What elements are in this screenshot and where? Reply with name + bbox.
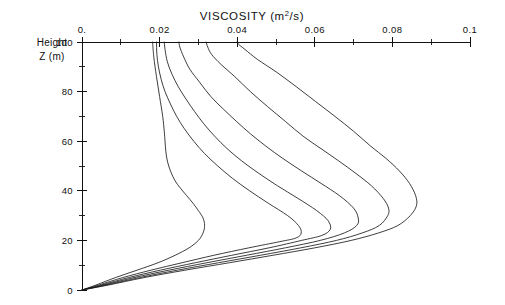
y-axis-label-line2: Z (m)	[39, 51, 64, 62]
viscosity-curve	[82, 42, 389, 290]
x-tick-label: 0.04	[227, 24, 247, 35]
x-tick-label: 0.02	[150, 24, 170, 35]
y-tick-label: 20	[62, 235, 73, 246]
y-tick-label: 100	[56, 37, 73, 48]
y-axis: 020406080100	[56, 37, 87, 296]
curve-group	[82, 42, 417, 290]
y-tick-label: 60	[62, 136, 73, 147]
x-tick-label: 0.	[78, 24, 87, 35]
viscosity-curve	[82, 42, 205, 290]
x-axis: 0.0.020.040.060.080.1	[78, 24, 478, 47]
y-tick-label: 40	[62, 185, 73, 196]
viscosity-curve	[82, 42, 417, 290]
chart-title: VISCOSITY (m2/s)	[200, 9, 304, 22]
x-tick-label: 0.08	[382, 24, 402, 35]
y-tick-label: 80	[62, 86, 73, 97]
x-tick-label: 0.06	[305, 24, 325, 35]
viscosity-profile-chart: VISCOSITY (m2/s) Height Z (m) 0.0.020.04…	[0, 0, 505, 305]
viscosity-curve	[82, 42, 301, 290]
x-tick-label: 0.1	[463, 24, 477, 35]
viscosity-curve	[82, 42, 359, 290]
y-tick-label: 0	[67, 285, 73, 296]
